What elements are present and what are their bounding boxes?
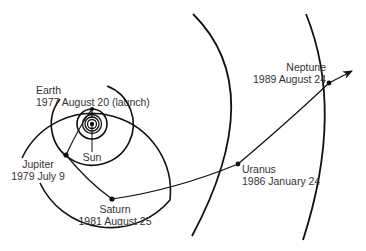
uranus-date: 1986 January 24 (242, 175, 320, 187)
neptune-label: Neptune 1989 August 24 (248, 61, 326, 85)
saturn-point (109, 196, 114, 201)
jupiter-point (63, 152, 68, 157)
neptune-name: Neptune (248, 61, 326, 73)
uranus-orbit (192, 14, 231, 236)
uranus-label: Uranus 1986 January 24 (242, 163, 320, 187)
jupiter-name: Jupiter (10, 158, 66, 170)
saturn-date: 1981 August 25 (78, 215, 152, 227)
uranus-point (236, 162, 241, 167)
sun-label: Sun (80, 151, 104, 163)
uranus-name: Uranus (242, 163, 320, 175)
neptune-date: 1989 August 24 (248, 73, 326, 85)
saturn-label: Saturn 1981 August 25 (78, 203, 152, 227)
earth-name: Earth (36, 84, 150, 96)
neptune-point (327, 81, 332, 86)
jupiter-label: Jupiter 1979 July 9 (10, 158, 66, 182)
sun-name: Sun (80, 151, 104, 163)
neptune-orbit (303, 14, 325, 240)
jupiter-date: 1979 July 9 (10, 170, 66, 182)
saturn-name: Saturn (78, 203, 152, 215)
earth-date: 1977 August 20 (launch) (36, 96, 150, 108)
solar-system-diagram (0, 0, 366, 251)
earth-label: Earth 1977 August 20 (launch) (36, 84, 150, 108)
